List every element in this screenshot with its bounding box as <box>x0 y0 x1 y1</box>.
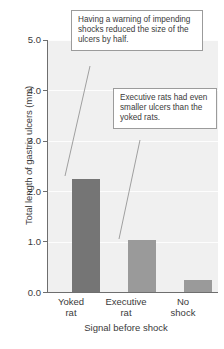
y-tick-mark-1 <box>43 241 48 242</box>
y-tick-mark-3 <box>43 141 48 142</box>
bar-executive-rat <box>128 240 156 292</box>
x-axis-title: Signal before shock <box>34 322 218 333</box>
bar-chart-figure: Total length of gastric ulcers (mm) 0.0 … <box>0 0 224 349</box>
y-tick-mark-5 <box>43 40 48 41</box>
plot-area <box>48 40 218 292</box>
y-axis-title: Total length of gastric ulcers (mm) <box>23 51 34 261</box>
y-tick-mark-4 <box>43 90 48 91</box>
x-tick-label-line-2: shock <box>150 307 216 318</box>
y-tick-label-3: 3.0 <box>7 136 41 146</box>
y-axis-line <box>47 40 48 293</box>
gridline-3 <box>48 141 218 142</box>
y-tick-mark-2 <box>43 191 48 192</box>
x-axis-line <box>47 292 218 293</box>
x-tick-label-line-1: No <box>150 296 216 307</box>
bar-no-shock <box>184 280 212 292</box>
y-tick-label-2: 2.0 <box>7 187 41 197</box>
annotation-callout-1: Having a warning of impending shocks red… <box>71 10 203 51</box>
annotation-callout-2: Executive rats had even smaller ulcers t… <box>113 88 217 129</box>
y-tick-label-4: 4.0 <box>7 86 41 96</box>
y-tick-label-0: 0.0 <box>7 288 41 298</box>
bar-yoked-rat <box>72 179 100 292</box>
x-tick-label-no-shock: No shock <box>150 296 216 318</box>
y-tick-mark-0 <box>43 292 48 293</box>
y-tick-label-5: 5.0 <box>7 35 41 45</box>
y-tick-label-1: 1.0 <box>7 237 41 247</box>
